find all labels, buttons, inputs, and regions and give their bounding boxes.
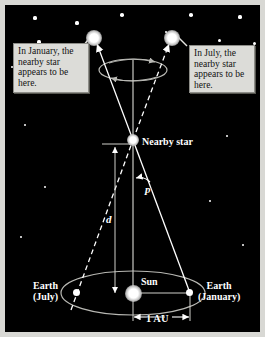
callout-january: In January, the nearby star appears to b…: [13, 43, 89, 93]
background-star: [44, 186, 46, 188]
earth-july-marker: [73, 289, 80, 296]
one-au-label: 1 AU: [146, 313, 168, 324]
sightline-july: [71, 140, 133, 310]
callout-july: In July, the nearby star appears to be h…: [189, 45, 255, 93]
parallax-figure: Nearby star Sun Earth (July) Earth (Janu…: [0, 0, 265, 337]
nearby-star-label: Nearby star: [142, 136, 193, 147]
sun-marker: [125, 285, 142, 302]
background-star: [238, 15, 241, 18]
sky-background: Nearby star Sun Earth (July) Earth (Janu…: [5, 5, 260, 332]
sightline-january-extension: [97, 44, 133, 140]
earth-july-label: Earth (July): [33, 280, 58, 302]
sightline-january: [133, 140, 190, 293]
parallax-angle-label: p: [145, 183, 151, 195]
background-star: [33, 16, 36, 19]
background-star: [189, 13, 193, 17]
background-star: [120, 13, 124, 17]
background-star: [242, 244, 244, 246]
earth-january-label: Earth (January): [198, 280, 240, 302]
sightline-july-extension: [133, 44, 169, 140]
background-star: [75, 21, 78, 24]
background-star: [218, 39, 221, 42]
nearby-star: [127, 134, 139, 146]
distance-label: d: [106, 213, 112, 225]
background-star: [209, 200, 211, 202]
sun-label: Sun: [141, 276, 158, 287]
earth-january-marker: [186, 289, 193, 296]
background-star: [20, 236, 22, 238]
